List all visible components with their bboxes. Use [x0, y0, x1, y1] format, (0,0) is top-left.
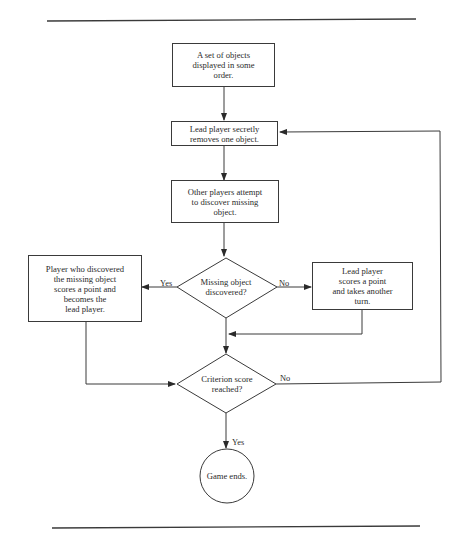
remove-object-text: Lead player secretly removes one object. — [190, 124, 260, 144]
decision-criterion-label: Criterion score reached? — [188, 370, 266, 398]
top-rule — [47, 19, 416, 21]
end-node: Game ends. — [200, 468, 254, 484]
decision-criterion-text: Criterion score reached? — [201, 374, 252, 394]
start-node: A set of objects displayed in some order… — [172, 43, 275, 87]
end-node-text: Game ends. — [207, 471, 248, 481]
no-outcome-text: Lead player scores a point and takes ano… — [332, 266, 392, 306]
decision-discovered-text: Missing object discovered? — [201, 277, 252, 297]
edge-label-discovered-no: No — [279, 279, 289, 289]
discover-node: Other players attempt to discover missin… — [171, 180, 279, 223]
discover-text: Other players attempt to discover missin… — [188, 187, 262, 217]
decision-discovered-label: Missing object discovered? — [187, 273, 265, 301]
bottom-rule — [52, 526, 420, 528]
edge-label-criterion-yes: Yes — [232, 438, 244, 448]
start-node-text: A set of objects displayed in some order… — [192, 50, 254, 80]
no-outcome-node: Lead player scores a point and takes ano… — [312, 262, 413, 310]
edge-label-discovered-yes: Yes — [160, 279, 172, 289]
remove-object-node: Lead player secretly removes one object. — [171, 121, 278, 146]
yes-outcome-node: Player who discovered the missing object… — [28, 255, 142, 322]
yes-outcome-text: Player who discovered the missing object… — [46, 264, 124, 314]
edge-label-criterion-no: No — [280, 374, 290, 384]
